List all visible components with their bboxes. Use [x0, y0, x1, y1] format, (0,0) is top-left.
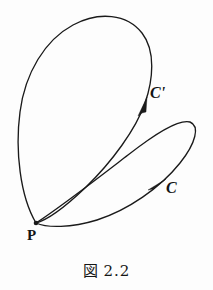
base-point-p-dot	[34, 221, 39, 226]
diagram-canvas	[0, 0, 213, 290]
caption-number: 2.2	[104, 262, 131, 280]
curve-c-prime	[18, 16, 152, 223]
caption-kanji: 図	[83, 262, 99, 280]
label-c: C	[166, 180, 177, 196]
label-p: P	[27, 228, 36, 243]
curve-c	[36, 122, 195, 227]
label-c-prime: C'	[150, 85, 166, 101]
figure-container: C' C P 図2.2	[0, 0, 213, 290]
arrowhead-c-prime-icon	[138, 97, 147, 116]
figure-caption: 図2.2	[0, 259, 213, 280]
arrowhead-c-icon	[148, 179, 166, 190]
